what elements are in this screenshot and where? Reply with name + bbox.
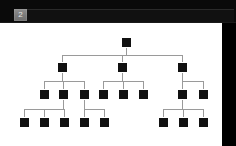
- tree-node[interactable]: [178, 90, 187, 99]
- tree-connector-vertical: [163, 109, 164, 118]
- tree-connector-vertical: [44, 109, 45, 118]
- tree-connector-vertical: [182, 72, 183, 82]
- tree-connector-vertical: [63, 99, 64, 110]
- tree-node[interactable]: [99, 90, 108, 99]
- tree-connector-vertical: [123, 81, 124, 90]
- tree-connector-vertical: [64, 109, 65, 118]
- tree-connector-vertical: [183, 109, 184, 118]
- tree-node[interactable]: [40, 90, 49, 99]
- tree-node[interactable]: [58, 63, 67, 72]
- tree-connector-vertical: [84, 109, 85, 118]
- tree-connector-vertical: [122, 55, 123, 63]
- tree-node[interactable]: [59, 90, 68, 99]
- tree-connector-vertical: [126, 47, 127, 56]
- tree-connector-vertical: [182, 81, 183, 90]
- tree-connector-vertical: [84, 81, 85, 90]
- tree-connector-vertical: [44, 81, 45, 90]
- tree-connector-vertical: [63, 81, 64, 90]
- tree-node[interactable]: [179, 118, 188, 127]
- tree-connector-vertical: [104, 109, 105, 118]
- tree-connector-vertical: [24, 109, 25, 118]
- tree-node[interactable]: [20, 118, 29, 127]
- tree-node[interactable]: [139, 90, 148, 99]
- tree-node[interactable]: [159, 118, 168, 127]
- header-title-strip: [27, 9, 234, 22]
- tree-node[interactable]: [100, 118, 109, 127]
- tree-node[interactable]: [118, 63, 127, 72]
- tree-connector-horizontal: [84, 109, 104, 110]
- tree-node[interactable]: [122, 38, 131, 47]
- tree-connector-vertical: [103, 81, 104, 90]
- tree-connector-vertical: [182, 55, 183, 63]
- tree-node[interactable]: [80, 90, 89, 99]
- slide-canvas[interactable]: [0, 23, 222, 146]
- tree-node[interactable]: [80, 118, 89, 127]
- tree-node[interactable]: [60, 118, 69, 127]
- tree-connector-horizontal: [182, 81, 203, 82]
- tree-node[interactable]: [40, 118, 49, 127]
- tree-connector-vertical: [182, 99, 183, 110]
- tree-node[interactable]: [199, 90, 208, 99]
- tree-connector-vertical: [203, 81, 204, 90]
- screenshot-root: 2: [0, 0, 236, 146]
- tree-connector-vertical: [62, 72, 63, 82]
- right-gutter: [222, 23, 236, 146]
- header-bar: 2: [0, 0, 236, 23]
- tree-connector-vertical: [203, 109, 204, 118]
- page-number-badge[interactable]: 2: [14, 9, 27, 21]
- tree-connector-vertical: [122, 72, 123, 82]
- tree-node[interactable]: [178, 63, 187, 72]
- tree-node[interactable]: [119, 90, 128, 99]
- tree-node[interactable]: [199, 118, 208, 127]
- tree-connector-vertical: [62, 55, 63, 63]
- tree-connector-vertical: [143, 81, 144, 90]
- tree-connector-vertical: [84, 99, 85, 110]
- tree-connector-horizontal: [44, 81, 84, 82]
